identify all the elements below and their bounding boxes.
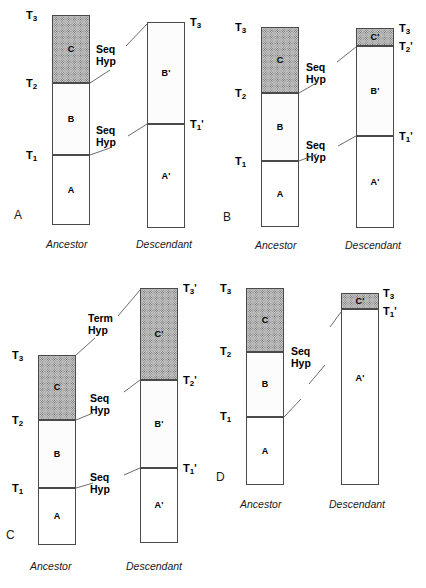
time-line-t2-prime-desc: T2'	[399, 41, 413, 52]
panel-b: C B A T3 T2 T1 C' B' A' T3 T2' T1'	[213, 0, 426, 280]
panel-letter: D	[216, 471, 225, 483]
unit-c-prime: C'	[356, 28, 394, 46]
hyp-line-1: Seq	[90, 471, 109, 483]
panel-d-descendant-column: C' A'	[341, 293, 379, 485]
hyp-line-1: Seq	[306, 61, 325, 73]
descendant-caption: Descendant	[136, 239, 192, 250]
unit-label: C	[68, 45, 75, 54]
descendant-caption: Descendant	[345, 240, 401, 251]
panel-a: C B A T3 T2 T1 B' A' T3 T1' Seq Hyp	[0, 0, 213, 280]
unit-b: B	[261, 93, 299, 161]
panel-d-ancestor-column: C B A	[246, 288, 284, 485]
unit-label: B'	[161, 69, 170, 78]
unit-c: C	[246, 288, 284, 352]
time-line-t2: T2	[235, 88, 246, 99]
unit-label: A'	[355, 374, 364, 383]
time-line-t1-prime-desc: T1'	[183, 463, 197, 474]
unit-label: B'	[154, 420, 163, 429]
panel-b-ancestor-column: C B A	[261, 27, 299, 227]
descendant-caption: Descendant	[126, 561, 182, 572]
time-line-t2: T2	[220, 346, 231, 357]
unit-a: A	[246, 417, 284, 485]
panel-letter: B	[223, 211, 231, 223]
panel-letter: C	[6, 529, 15, 541]
ancestor-caption: Ancestor	[30, 561, 71, 572]
hyp-line-2: Hyp	[90, 404, 110, 416]
time-line-t1: T1	[235, 156, 246, 167]
hyp-line-1: Seq	[96, 43, 115, 55]
seq-hyp-label-lower: Seq Hyp	[90, 472, 110, 495]
time-line-t3: T3	[26, 10, 37, 21]
panel-a-descendant-column: B' A'	[147, 22, 185, 228]
ancestor-caption: Ancestor	[240, 499, 281, 510]
time-line-t1: T1	[12, 483, 23, 494]
seq-hyp-label-lower: Seq Hyp	[96, 125, 116, 148]
ancestor-caption: Ancestor	[46, 239, 87, 250]
time-line-t3-desc: T3	[383, 288, 394, 299]
ancestor-caption: Ancestor	[255, 240, 296, 251]
time-line-t1: T1	[220, 411, 231, 422]
time-line-t3-prime-desc: T3'	[183, 283, 197, 294]
panel-d: C B A T3 T2 T1 C' A' T3 T1' Seq Hyp	[213, 280, 426, 588]
descendant-caption: Descendant	[329, 499, 385, 510]
hyp-line-2: Hyp	[291, 357, 311, 369]
time-line-t2-prime-desc: T2'	[183, 375, 197, 386]
hyp-line-2: Hyp	[88, 324, 108, 336]
hyp-line-2: Hyp	[306, 151, 326, 163]
unit-c-prime: C'	[140, 288, 178, 380]
panel-a-ancestor-column: C B A	[52, 15, 90, 225]
time-line-t3-desc: T3	[399, 23, 410, 34]
unit-a-prime: A'	[356, 136, 394, 228]
unit-label: A'	[161, 172, 170, 181]
unit-label: C'	[154, 330, 163, 339]
time-line-t1-prime-desc: T1'	[399, 131, 413, 142]
unit-b: B	[52, 83, 90, 155]
unit-label: A	[68, 186, 75, 195]
time-line-t3: T3	[220, 283, 231, 294]
unit-c: C	[261, 27, 299, 93]
unit-label: B	[277, 123, 284, 132]
unit-label: B	[54, 450, 61, 459]
figure-canvas: C B A T3 T2 T1 B' A' T3 T1' Seq Hyp	[0, 0, 426, 588]
unit-c: C	[38, 355, 76, 420]
hyp-line-2: Hyp	[90, 483, 110, 495]
seq-hyp-label: Seq Hyp	[291, 346, 311, 369]
tie-line-seq	[213, 280, 426, 588]
unit-label: A	[262, 447, 269, 456]
unit-c-prime: C'	[341, 293, 379, 309]
seq-hyp-label-middle: Seq Hyp	[90, 393, 110, 416]
unit-a: A	[38, 488, 76, 545]
unit-label: A'	[370, 178, 379, 187]
unit-label: C	[54, 383, 61, 392]
panel-c-descendant-column: C' B' A'	[140, 288, 178, 543]
time-line-t3: T3	[12, 350, 23, 361]
unit-label: B'	[370, 87, 379, 96]
unit-a-prime: A'	[140, 468, 178, 543]
unit-b: B	[38, 420, 76, 488]
seq-hyp-label-lower: Seq Hyp	[306, 140, 326, 163]
unit-label: B	[68, 115, 75, 124]
term-hyp-label: Term Hyp	[88, 313, 113, 336]
time-line-t2: T2	[12, 415, 23, 426]
hyp-line-1: Seq	[291, 345, 310, 357]
unit-a: A	[52, 155, 90, 225]
time-line-t3-desc: T3	[190, 17, 201, 28]
unit-label: B	[262, 380, 269, 389]
hyp-line-1: Term	[88, 312, 113, 324]
panel-letter: A	[14, 209, 22, 221]
unit-a-prime: A'	[341, 309, 379, 485]
unit-label: A	[54, 512, 61, 521]
hyp-line-1: Seq	[96, 124, 115, 136]
unit-a: A	[261, 161, 299, 227]
unit-b-prime: B'	[140, 380, 178, 468]
time-line-t1-prime-desc: T1'	[383, 306, 397, 317]
hyp-line-2: Hyp	[306, 73, 326, 85]
unit-label: C	[262, 316, 269, 325]
unit-b-prime: B'	[147, 22, 185, 124]
unit-label: C	[277, 56, 284, 65]
unit-c: C	[52, 15, 90, 83]
hyp-line-2: Hyp	[96, 55, 116, 67]
time-line-t2: T2	[26, 78, 37, 89]
time-line-t1: T1	[26, 150, 37, 161]
hyp-line-2: Hyp	[96, 136, 116, 148]
